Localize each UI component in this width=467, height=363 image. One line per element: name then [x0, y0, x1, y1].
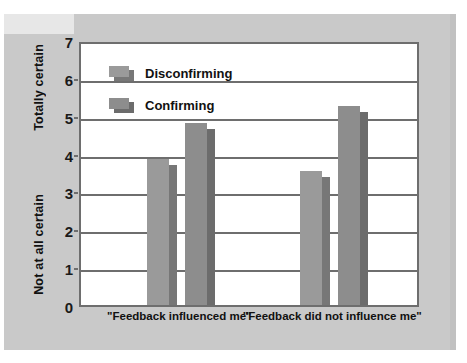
y-tick-label: 1 — [65, 262, 73, 277]
y-tick-mark — [74, 117, 78, 119]
bar-front-face — [147, 159, 169, 305]
bar-side-face — [207, 129, 215, 305]
y-tick-mark — [74, 79, 78, 81]
x-axis-label-1: "Feedback influenced me" — [107, 310, 251, 322]
y-tick-mark — [74, 192, 78, 194]
y-tick-label: 3 — [65, 186, 73, 201]
y-tick-label: 0 — [65, 300, 73, 315]
y-tick-mark — [74, 268, 78, 270]
bar-side-face — [169, 165, 177, 305]
bar-side-face — [322, 177, 330, 305]
y-axis-top-annotation: Totally certain — [32, 44, 46, 131]
x-axis: "Feedback influenced me""Feedback did no… — [79, 310, 419, 334]
chart-page: Totally certain Not at all certain 76543… — [0, 0, 467, 363]
bar-disconfirming-group2 — [300, 171, 330, 305]
bar-confirming-group1 — [185, 123, 215, 305]
panel-scan-shadow — [450, 14, 456, 350]
figure-panel: Totally certain Not at all certain 76543… — [4, 14, 456, 350]
y-tick-label: 6 — [65, 72, 73, 87]
bar-disconfirming-group1 — [147, 159, 177, 305]
legend-swatch-disconfirming-icon — [109, 66, 135, 81]
legend-item-confirming: Confirming — [109, 92, 279, 118]
legend-label-confirming: Confirming — [145, 98, 214, 113]
panel-scan-highlight — [4, 14, 74, 34]
legend-label-disconfirming: Disconfirming — [145, 66, 232, 81]
x-axis-label-2: "Feedback did not influence me" — [243, 310, 422, 322]
bar-side-face — [360, 112, 368, 305]
bar-confirming-group2 — [338, 106, 368, 305]
y-tick-label: 7 — [65, 35, 73, 50]
y-axis: 76543210 — [52, 42, 78, 307]
y-axis-bottom-annotation: Not at all certain — [32, 194, 46, 295]
legend: Disconfirming Confirming — [109, 60, 279, 124]
bar-front-face — [338, 106, 360, 305]
bar-front-face — [300, 171, 322, 305]
legend-swatch-confirming-icon — [109, 98, 135, 113]
y-tick-label: 2 — [65, 224, 73, 239]
y-tick-mark — [74, 230, 78, 232]
bar-front-face — [185, 123, 207, 305]
y-tick-mark — [74, 155, 78, 157]
y-tick-label: 4 — [65, 148, 73, 163]
plot-area: Disconfirming Confirming — [79, 42, 419, 307]
y-tick-label: 5 — [65, 110, 73, 125]
legend-item-disconfirming: Disconfirming — [109, 60, 279, 86]
